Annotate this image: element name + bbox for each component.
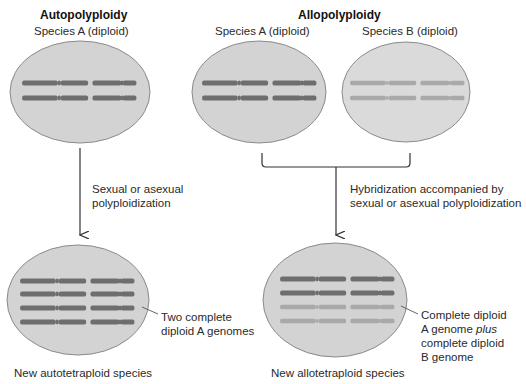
auto-annotation-line2: diploid A genomes (161, 324, 254, 338)
allo-annotation-line2-prefix: A genome (421, 323, 476, 335)
cell-allotetraploid (263, 243, 418, 357)
hybridization-bracket (262, 153, 410, 167)
cell-autotetraploid (7, 245, 158, 355)
allo-annotation-line3: complete diploid (421, 336, 504, 350)
autopolyploidy-title: Autopolyploidy (40, 8, 127, 22)
autotetraploid-label: New autotetraploid species (14, 366, 152, 380)
allo-process-line1: Hybridization accompanied by (350, 182, 503, 196)
species-a-label-allo: Species A (diploid) (215, 24, 310, 38)
allopolyploidy-title: Allopolyploidy (298, 8, 381, 22)
allo-process-line2: sexual or asexual polyploidization (350, 196, 521, 210)
species-a-label-auto: Species A (diploid) (34, 24, 129, 38)
cell-species-a-auto (10, 41, 150, 143)
allo-annotation-plus: plus (476, 323, 497, 335)
cell-species-b (342, 42, 470, 142)
auto-process-line1: Sexual or asexual (92, 182, 183, 196)
cell-species-a-allo (192, 41, 326, 143)
allo-annotation-line4: B genome (421, 350, 473, 364)
allo-annotation-line2: A genome plus (421, 322, 497, 336)
allotetraploid-label: New allotetraploid species (271, 366, 405, 380)
species-b-label: Species B (diploid) (362, 24, 458, 38)
auto-annotation-line1: Two complete (161, 310, 232, 324)
allo-annotation-line1: Complete diploid (421, 308, 507, 322)
auto-process-line2: polyploidization (92, 196, 171, 210)
